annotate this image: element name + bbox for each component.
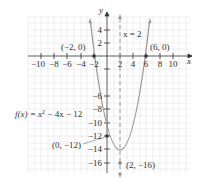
y-axis-label: y xyxy=(98,5,103,15)
svg-text:10: 10 xyxy=(169,59,179,69)
svg-text:4: 4 xyxy=(131,59,136,69)
svg-text:4: 4 xyxy=(98,25,103,35)
point-x-intercept-left xyxy=(92,54,96,58)
symmetry-label: x = 2 xyxy=(123,29,142,39)
parabola-chart: −10 −8 −6 −4 −2 2 4 6 8 10 4 2 −6 −8 −10… xyxy=(0,0,201,185)
svg-text:−2: −2 xyxy=(89,59,99,69)
x-tick-labels: −10 −8 −6 −4 −2 2 4 6 8 10 xyxy=(31,59,178,69)
point-x-intercept-right xyxy=(144,54,148,58)
svg-text:6: 6 xyxy=(144,59,149,69)
point-vertex xyxy=(118,161,122,165)
x-axis-label: x xyxy=(186,56,191,66)
annotation-neg2-0: (−2, 0) xyxy=(61,42,86,52)
svg-text:2: 2 xyxy=(98,38,103,48)
svg-text:−10: −10 xyxy=(31,59,46,69)
svg-text:−14: −14 xyxy=(88,144,103,154)
svg-text:2: 2 xyxy=(118,59,123,69)
svg-text:−4: −4 xyxy=(76,59,86,69)
svg-text:−6: −6 xyxy=(62,59,72,69)
svg-text:8: 8 xyxy=(158,59,163,69)
point-y-intercept xyxy=(105,134,109,138)
svg-text:−16: −16 xyxy=(88,158,103,168)
svg-text:−10: −10 xyxy=(88,118,103,128)
svg-text:−6: −6 xyxy=(92,91,102,101)
annotation-6-0: (6, 0) xyxy=(150,42,170,52)
function-label: f(x) = x2 − 4x − 12 xyxy=(15,109,82,119)
annotation-vertex: (2, −16) xyxy=(126,160,155,170)
svg-text:−12: −12 xyxy=(88,131,102,141)
svg-text:−8: −8 xyxy=(92,104,102,114)
svg-text:−8: −8 xyxy=(49,59,59,69)
annotation-0-neg12: (0, −12) xyxy=(52,140,81,150)
y-tick-labels: 4 2 −6 −8 −10 −12 −14 −16 xyxy=(88,25,103,168)
